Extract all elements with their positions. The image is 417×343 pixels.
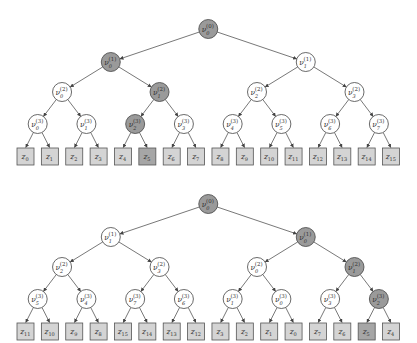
tree-edge [74, 307, 82, 322]
tree-edge [68, 100, 81, 117]
node-subscript: 3 [328, 300, 331, 306]
node-superscript: (1) [304, 56, 312, 62]
tree-edge [91, 307, 99, 322]
tree-node: ν5(3) [28, 290, 47, 309]
leaf-subscript: 11 [24, 331, 30, 337]
leaf-node: z9 [66, 323, 83, 340]
tree-node: ν7(3) [126, 290, 145, 309]
tree-edge [123, 307, 131, 322]
leaf-subscript: 10 [48, 331, 54, 337]
tree-node-highlighted: ν2(3) [369, 290, 388, 309]
tree-edge [217, 207, 296, 234]
tree-edge [263, 100, 276, 117]
node-subscript: 1 [304, 63, 307, 69]
leaf-node-highlighted: z5 [358, 323, 375, 340]
tree-edge [221, 132, 229, 147]
node-superscript: (3) [279, 118, 287, 124]
tree-edge [120, 207, 199, 234]
leaf-subscript: 2 [245, 331, 248, 337]
leaf-subscript: 0 [25, 156, 28, 162]
tree-edge [43, 100, 56, 117]
tree-node: ν6(3) [321, 115, 340, 134]
tree-edge [91, 132, 99, 147]
tree-node: ν0(3) [272, 290, 291, 309]
tree-node: ν4(3) [77, 290, 96, 309]
leaf-node: z12 [188, 323, 205, 340]
node-superscript: (2) [255, 86, 263, 92]
tree-node-highlighted: ν1(2) [345, 258, 364, 277]
leaf-subscript: 12 [195, 331, 201, 337]
tree-edge [238, 100, 251, 117]
node-superscript: (2) [352, 86, 360, 92]
leaf-node: z13 [334, 148, 351, 165]
leaf-subscript: 1 [50, 156, 53, 162]
tree-edge [26, 132, 34, 147]
leaf-node: z2 [66, 148, 83, 165]
leaf-subscript: 4 [391, 331, 394, 337]
leaf-subscript: 6 [172, 156, 175, 162]
leaf-node-highlighted: z5 [139, 148, 156, 165]
tree-edge [314, 242, 347, 262]
tree-edge [360, 275, 373, 292]
node-subscript: 4 [230, 125, 234, 131]
node-superscript: (0) [206, 198, 214, 204]
leaf-node: z1 [41, 148, 58, 165]
node-superscript: (3) [182, 118, 190, 124]
leaf-subscript: 14 [146, 331, 152, 337]
tree-edge [360, 100, 373, 117]
leaf-subscript: 8 [220, 156, 223, 162]
leaf-subscript: 15 [122, 331, 128, 337]
leaf-node: z8 [212, 148, 229, 165]
tree-edge [165, 275, 178, 292]
tree-node: ν5(3) [272, 115, 291, 134]
leaf-node: z10 [41, 323, 58, 340]
leaf-node: z11 [285, 148, 302, 165]
node-subscript: 3 [158, 268, 161, 274]
node-superscript: (2) [157, 261, 165, 267]
leaf-node: z0 [285, 323, 302, 340]
node-superscript: (3) [230, 293, 238, 299]
tree-edge [141, 275, 154, 292]
leaf-node: z7 [309, 323, 326, 340]
node-superscript: (2) [60, 86, 68, 92]
node-subscript: 2 [59, 268, 63, 274]
leaf-subscript: 3 [99, 156, 102, 162]
node-superscript: (3) [84, 118, 92, 124]
tree-node: ν3(2) [345, 83, 364, 102]
leaf-subscript: 3 [220, 331, 223, 337]
node-subscript: 1 [231, 300, 234, 306]
tree-edge [172, 132, 180, 147]
tree-edge [188, 132, 196, 147]
node-superscript: (2) [157, 86, 165, 92]
leaf-node: z13 [163, 323, 180, 340]
tree-edge [334, 307, 342, 322]
tree-edge [141, 100, 154, 117]
tree-edge [188, 307, 196, 322]
node-superscript: (2) [352, 261, 360, 267]
tree-edge [334, 132, 342, 147]
tree-node: ν1(3) [223, 290, 242, 309]
tree-edge [336, 275, 349, 292]
leaf-node: z15 [383, 148, 400, 165]
leaf-subscript: 12 [316, 156, 322, 162]
tree-edge [26, 307, 34, 322]
leaf-subscript: 6 [342, 331, 345, 337]
tree-node: ν6(3) [174, 290, 193, 309]
leaf-subscript: 2 [74, 156, 77, 162]
leaf-subscript: 0 [293, 331, 296, 337]
leaf-subscript: 15 [390, 156, 396, 162]
tree-edge [314, 67, 347, 87]
leaf-subscript: 13 [341, 156, 347, 162]
tree-edge [367, 132, 375, 147]
leaf-subscript: 5 [147, 156, 150, 162]
leaf-node: z15 [114, 323, 131, 340]
node-subscript: 5 [279, 125, 282, 131]
leaf-subscript: 8 [99, 331, 102, 337]
tree-node: ν3(3) [174, 115, 193, 134]
tree-edge [318, 307, 326, 322]
tree-edge [265, 67, 298, 87]
tree-edge [318, 132, 326, 147]
leaf-subscript: 7 [318, 331, 321, 337]
tree-node: ν4(3) [223, 115, 242, 134]
leaf-subscript: 9 [245, 156, 248, 162]
